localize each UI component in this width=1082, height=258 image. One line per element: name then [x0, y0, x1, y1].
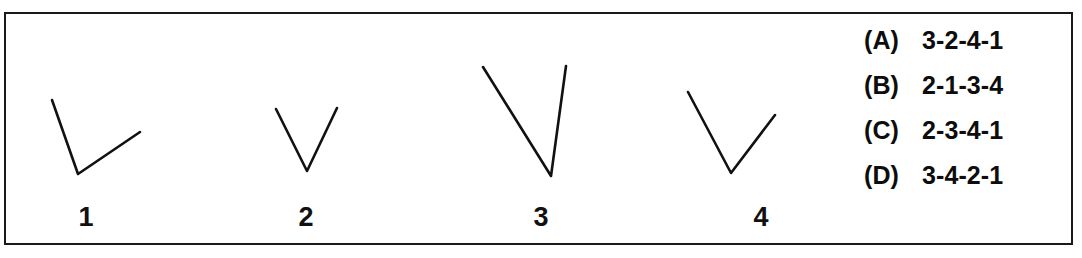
answer-option-a[interactable]: (A) 3-2-4-1 — [864, 26, 1064, 71]
figure-label-1: 1 — [66, 204, 106, 231]
answer-option-d-text: 3-4-2-1 — [922, 161, 1003, 190]
figure-label-3: 3 — [521, 204, 561, 231]
answer-option-c[interactable]: (C) 2-3-4-1 — [864, 116, 1064, 161]
answer-option-b-text: 2-1-3-4 — [922, 71, 1003, 100]
answer-option-c-letter: (C) — [864, 116, 922, 145]
figure-label-2: 2 — [286, 204, 326, 231]
answer-option-a-letter: (A) — [864, 26, 922, 55]
figure-label-4: 4 — [741, 204, 781, 231]
question-page: 1 2 3 4 (A) 3-2-4-1 (B) 2-1-3-4 (C) 2-3-… — [0, 0, 1082, 258]
answer-option-d[interactable]: (D) 3-4-2-1 — [864, 161, 1064, 206]
answer-option-b-letter: (B) — [864, 71, 922, 100]
answer-option-b[interactable]: (B) 2-1-3-4 — [864, 71, 1064, 116]
answer-option-c-text: 2-3-4-1 — [922, 116, 1003, 145]
answer-option-d-letter: (D) — [864, 161, 922, 190]
answer-option-a-text: 3-2-4-1 — [922, 26, 1003, 55]
answer-options-list: (A) 3-2-4-1 (B) 2-1-3-4 (C) 2-3-4-1 (D) … — [864, 26, 1064, 206]
